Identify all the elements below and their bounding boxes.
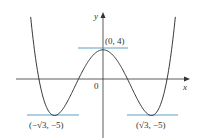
x-axis-label: x [182, 82, 187, 92]
origin-label: 0 [94, 81, 99, 91]
graph: y x 0 (0, 4) (−√3, −5) (√3, −5) [0, 0, 200, 138]
x-axis-arrow-icon [184, 77, 190, 82]
point-label-max: (0, 4) [105, 36, 125, 46]
y-axis-arrow-icon [101, 12, 106, 18]
y-axis-label: y [93, 11, 98, 21]
point-label-min-left: (−√3, −5) [29, 120, 64, 130]
point-label-min-right: (√3, −5) [136, 120, 166, 130]
